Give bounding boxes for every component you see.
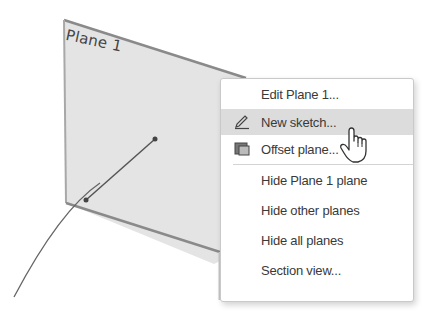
pencil-icon xyxy=(233,114,251,130)
menu-item-label: Offset plane... xyxy=(261,142,339,157)
hand-pointer-icon xyxy=(340,127,370,167)
menu-item-offset-plane[interactable]: Offset plane... xyxy=(221,136,413,162)
menu-item-label: New sketch... xyxy=(261,115,336,130)
menu-item-label: Hide all planes xyxy=(261,233,343,248)
menu-item-new-sketch[interactable]: New sketch... xyxy=(221,109,413,135)
menu-item-hide-plane[interactable]: Hide Plane 1 plane xyxy=(221,167,413,193)
plane-face[interactable] xyxy=(64,20,246,264)
menu-item-label: Hide Plane 1 plane xyxy=(261,173,367,188)
context-menu: Edit Plane 1... New sketch... Offset pla… xyxy=(220,78,414,302)
sketch-point[interactable] xyxy=(153,137,158,142)
menu-item-label: Edit Plane 1... xyxy=(261,87,339,102)
menu-item-label: Section view... xyxy=(261,263,341,278)
menu-separator xyxy=(233,164,413,165)
menu-item-hide-all-planes[interactable]: Hide all planes xyxy=(221,227,413,253)
offset-plane-icon xyxy=(233,141,251,157)
menu-item-edit-plane[interactable]: Edit Plane 1... xyxy=(221,81,413,107)
sketch-point[interactable] xyxy=(84,198,89,203)
menu-item-label: Hide other planes xyxy=(261,203,360,218)
menu-item-hide-other-planes[interactable]: Hide other planes xyxy=(221,197,413,223)
menu-item-section-view[interactable]: Section view... xyxy=(221,257,413,283)
